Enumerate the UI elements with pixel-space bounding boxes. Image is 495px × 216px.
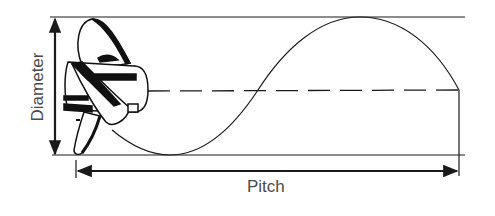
center-dashed-line xyxy=(148,90,465,91)
propeller-illustration xyxy=(64,19,148,155)
helix-sine-curve xyxy=(112,17,459,155)
pitch-label: Pitch xyxy=(247,177,285,197)
diameter-label: Diameter xyxy=(28,53,48,122)
